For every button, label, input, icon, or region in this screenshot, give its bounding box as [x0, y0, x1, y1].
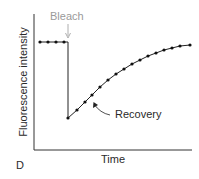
data-point	[122, 67, 125, 70]
data-point	[188, 43, 191, 46]
data-point	[98, 85, 101, 88]
data-point	[114, 72, 117, 75]
data-point	[154, 51, 157, 54]
data-point	[162, 48, 165, 51]
data-point	[138, 58, 141, 61]
y-axis-label: Fluorescence intensity	[17, 27, 29, 137]
data-point	[54, 40, 57, 43]
data-point	[83, 100, 86, 103]
recovery-arrowhead-icon	[93, 102, 98, 108]
data-point	[75, 108, 78, 111]
series-line	[40, 42, 190, 118]
data-point	[146, 54, 149, 57]
data-point	[66, 116, 69, 119]
data-point	[62, 40, 65, 43]
data-point	[90, 93, 93, 96]
data-point	[46, 40, 49, 43]
x-axis-label: Time	[101, 153, 125, 165]
data-point	[38, 40, 41, 43]
data-point	[178, 44, 181, 47]
recovery-label: Recovery	[115, 108, 162, 120]
frap-chart: Bleach Recovery Fluorescence intensity T…	[0, 0, 199, 179]
data-point	[130, 62, 133, 65]
panel-label: D	[16, 159, 24, 171]
bleach-label: Bleach	[50, 10, 84, 22]
data-point	[170, 46, 173, 49]
data-point	[106, 78, 109, 81]
